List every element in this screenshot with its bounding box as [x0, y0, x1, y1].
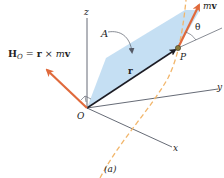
- point-p-label: P: [179, 52, 187, 62]
- origin-label: O: [77, 111, 85, 121]
- point-p-marker: [175, 45, 180, 50]
- theta-label: θ: [195, 22, 200, 32]
- momentum-label: mv: [203, 1, 218, 11]
- z-axis-label: z: [83, 7, 89, 17]
- position-vector-label: r: [128, 66, 133, 76]
- angular-momentum-vector: [47, 70, 87, 108]
- angular-momentum-diagram: z y x O P A r θ mv HO = r × mv (a): [0, 0, 224, 178]
- x-axis: [87, 108, 172, 147]
- figure-caption: (a): [104, 164, 117, 174]
- plane-a-label: A: [100, 28, 108, 39]
- x-axis-label: x: [173, 143, 178, 153]
- right-angle-marker: [81, 96, 91, 102]
- theta-arc: [186, 32, 196, 40]
- y-axis-label: y: [216, 82, 223, 92]
- angular-momentum-equation: HO = r × mv: [8, 48, 71, 61]
